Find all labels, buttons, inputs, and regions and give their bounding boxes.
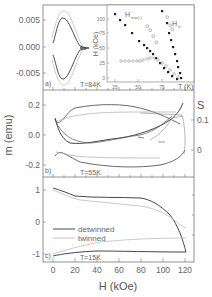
inset-ytick-1: 75 [99, 30, 105, 36]
ytick-a-2: -0.005 [16, 68, 40, 78]
ytick-b-2: -0.2 [25, 160, 40, 170]
inset-ylabel: H (kOe) [92, 32, 100, 57]
inset-hmax-sub: max(c) [131, 16, 142, 20]
y-axis-title: m (emu) [2, 115, 14, 156]
panel-b-curves [55, 103, 185, 167]
inset-ytick-4: 0 [102, 75, 105, 81]
inset-chart: 100 75 50 25 0 25 50 75 T (K) H (kOe) H … [92, 5, 194, 91]
xtick-5: 100 [156, 265, 170, 275]
ytick-c-2: -1 [32, 249, 40, 259]
inset-ytick-2: 50 [99, 45, 105, 51]
xtick-1: 20 [70, 265, 80, 275]
legend-label-detwinned: detwinned [78, 225, 114, 234]
ytick-a-0: 0.005 [19, 15, 41, 25]
xtick-2: 40 [92, 265, 102, 275]
xtick-0: 0 [51, 265, 56, 275]
ytick-b-1: 0.0 [28, 130, 40, 140]
ytick-b-0: 0.2 [28, 100, 40, 110]
figure: 0.005 0.000 -0.005 0.2 0.0 -0.2 1 0 -1 S… [0, 0, 212, 297]
temp-label-c: T=15K [80, 254, 101, 261]
legend: detwinned twinned [53, 225, 114, 243]
ytick-c-1: 0 [35, 217, 40, 227]
ytick-c-0: 1 [35, 185, 40, 195]
inset-xtick-0: 25 [112, 84, 118, 90]
panel-label-c: c) [45, 252, 51, 260]
x-axis-title: H (kOe) [99, 280, 138, 292]
legend-label-twinned: twinned [78, 234, 106, 243]
xtick-3: 60 [114, 265, 124, 275]
inset-hmax-label: H [125, 11, 130, 18]
temp-label-b: T=55K [80, 169, 101, 176]
inset-xtick-1: 50 [135, 84, 141, 90]
xtick-4: 80 [136, 265, 146, 275]
ytick-a-1: 0.000 [19, 42, 41, 52]
panel-label-a: a) [45, 80, 51, 88]
panel-c-curves [53, 188, 186, 256]
inset-ytick-3: 25 [99, 60, 105, 66]
right-axis-label: S [197, 99, 204, 111]
inset-xtick-2: 75 [159, 84, 165, 90]
inset-ytick-0: 100 [97, 16, 106, 22]
xtick-6: 120 [178, 265, 192, 275]
panel-label-b: b) [45, 167, 51, 175]
panel-a-curves [52, 11, 89, 85]
ytick-right-1: 0 [197, 145, 202, 155]
x-ticks [53, 87, 185, 262]
ytick-right-0: 0.1 [197, 115, 209, 125]
inset-xlabel: T (K) [178, 83, 193, 91]
temp-label-a: T=84K [80, 81, 101, 88]
inset-hirr-label: H [172, 20, 177, 27]
